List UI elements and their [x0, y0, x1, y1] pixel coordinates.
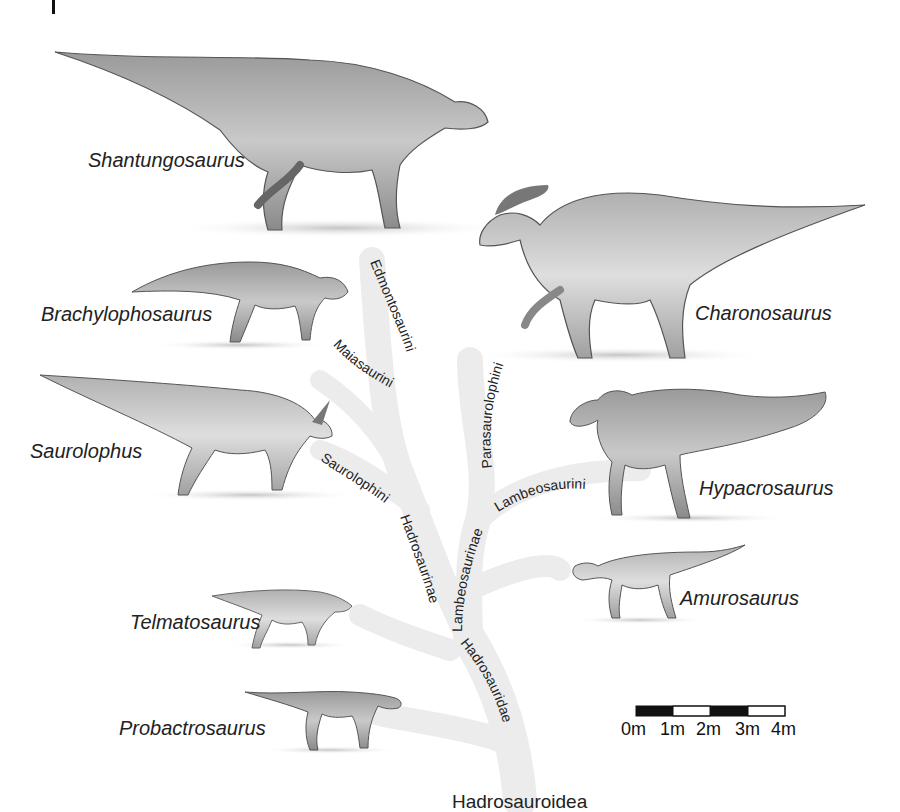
taxon-label-brachylophosaurus: Brachylophosaurus: [41, 304, 212, 324]
scale-segment-2: [673, 706, 710, 716]
charonosaurus-illustration: [470, 185, 865, 363]
taxon-label-telmatosaurus: Telmatosaurus: [130, 612, 260, 632]
scale-segment-1: [636, 706, 673, 716]
phylogeny-diagram: Edmontosaurini Maiasaurini Saurolophini …: [0, 0, 900, 812]
taxon-label-hypacrosaurus: Hypacrosaurus: [699, 478, 834, 498]
root-label: Hadrosauroidea: [452, 792, 587, 811]
taxon-label-charonosaurus: Charonosaurus: [695, 303, 832, 323]
saurolophus-illustration: [40, 375, 360, 501]
hypacrosaurus-illustration: [570, 389, 826, 523]
taxon-label-saurolophus: Saurolophus: [30, 441, 142, 461]
scale-tick-0: 0m: [621, 720, 646, 738]
taxon-label-probactrosaurus: Probactrosaurus: [119, 718, 266, 738]
amurosaurus-illustration: [570, 545, 745, 624]
scale-tick-3: 3m: [735, 720, 760, 738]
diagram-artwork: Edmontosaurini Maiasaurini Saurolophini …: [0, 0, 900, 812]
taxon-label-shantungosaurus: Shantungosaurus: [88, 150, 245, 170]
shantungosaurus-illustration: [55, 52, 510, 238]
scale-tick-1: 1m: [660, 720, 685, 738]
scale-bar: [636, 706, 785, 716]
clade-lambeosaurini: Lambeosaurini: [491, 475, 586, 514]
scale-tick-4: 4m: [771, 720, 796, 738]
taxon-label-amurosaurus: Amurosaurus: [680, 588, 799, 608]
scale-segment-4: [748, 706, 785, 716]
scale-segment-3: [710, 706, 748, 716]
scale-tick-2: 2m: [696, 720, 721, 738]
clade-labels: Edmontosaurini Maiasaurini Saurolophini …: [318, 257, 596, 730]
